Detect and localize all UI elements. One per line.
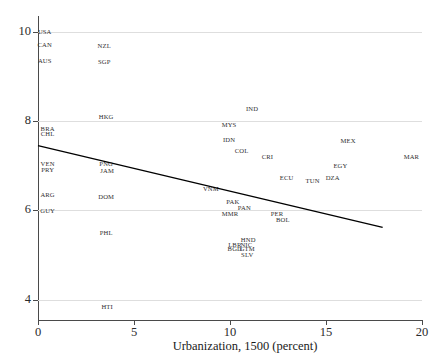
point-label-arg: ARG xyxy=(40,192,54,199)
point-label-jam: JAM xyxy=(100,168,114,175)
point-label-ind: IND xyxy=(246,106,258,113)
x-tick-label-15: 15 xyxy=(306,325,346,340)
point-label-phl: PHL xyxy=(100,230,113,237)
point-label-hti: HTI xyxy=(101,303,112,310)
point-label-mex: MEX xyxy=(341,138,356,145)
point-label-pan: PAN xyxy=(238,205,251,212)
point-label-tun: TUN xyxy=(306,178,320,185)
point-label-vnm: VNM xyxy=(203,186,219,193)
gridline-y-4 xyxy=(38,300,422,301)
point-label-mar: MAR xyxy=(404,154,419,161)
x-tick-label-5: 5 xyxy=(114,325,154,340)
y-tick-label-4: 4 xyxy=(0,292,31,307)
point-label-aus: AUS xyxy=(38,57,52,64)
point-label-can: CAN xyxy=(38,42,52,49)
point-label-sgp: SGP xyxy=(98,58,111,65)
point-label-usa: USA xyxy=(38,28,52,35)
y-tick-mark-4 xyxy=(33,300,38,301)
point-label-bol: BOL xyxy=(276,217,290,224)
point-label-pry: PRY xyxy=(41,167,54,174)
point-label-col: COL xyxy=(235,148,249,155)
point-label-slv: SLV xyxy=(241,252,253,259)
clipped-title xyxy=(0,0,446,4)
y-tick-label-6: 6 xyxy=(0,202,31,217)
point-label-egy: EGY xyxy=(333,162,347,169)
y-tick-label-10: 10 xyxy=(0,24,31,39)
point-label-hkg: HKG xyxy=(99,113,114,120)
x-axis-title-text: Urbanization, 1500 (percent) xyxy=(129,339,318,353)
point-label-mys: MYS xyxy=(222,121,237,128)
y-tick-mark-8 xyxy=(33,121,38,122)
x-tick-label-20: 20 xyxy=(402,325,442,340)
point-label-ecu: ECU xyxy=(280,175,294,182)
point-label-cri: CRI xyxy=(262,154,273,161)
point-label-idn: IDN xyxy=(223,137,235,144)
y-tick-mark-6 xyxy=(33,210,38,211)
point-label-dza: DZA xyxy=(326,175,340,182)
x-tick-label-0: 0 xyxy=(18,325,58,340)
y-tick-label-8: 8 xyxy=(0,113,31,128)
point-label-chl: CHL xyxy=(41,130,55,137)
regression-line xyxy=(0,0,446,357)
point-label-nzl: NZL xyxy=(98,43,111,50)
point-label-dom: DOM xyxy=(98,194,114,201)
point-label-guy: GUY xyxy=(40,208,55,215)
point-label-mmr: MMR xyxy=(222,210,239,217)
x-tick-label-10: 10 xyxy=(210,325,250,340)
scatter-chart: 46810 05101520 USACANNZLAUSSGPINDHKGMYSB… xyxy=(0,0,446,357)
gridline-y-10 xyxy=(38,32,422,33)
point-label-png: PNG xyxy=(99,160,113,167)
x-axis-title: Urbanization, 1500 (percent) xyxy=(0,339,446,354)
